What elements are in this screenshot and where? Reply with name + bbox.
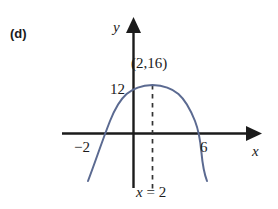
axis-of-symmetry-value: = 2 [143, 184, 166, 200]
x-axis-arrowhead [246, 126, 262, 141]
vertex-label: (2,16) [131, 56, 167, 71]
figure-container: (d) y x (2,16) 12 −2 6 x = 2 [0, 0, 278, 209]
parabola-plot [0, 0, 278, 209]
x-intercept-left-label: −2 [74, 140, 90, 155]
part-label: (d) [10, 27, 27, 40]
y-axis-label: y [113, 20, 120, 35]
axis-of-symmetry-variable: x [136, 184, 143, 200]
axis-of-symmetry-label: x = 2 [136, 185, 166, 200]
x-axis-label: x [252, 144, 259, 159]
y-intercept-label: 12 [110, 82, 125, 97]
y-axis-arrowhead [126, 17, 141, 33]
x-intercept-right-label: 6 [200, 140, 208, 155]
